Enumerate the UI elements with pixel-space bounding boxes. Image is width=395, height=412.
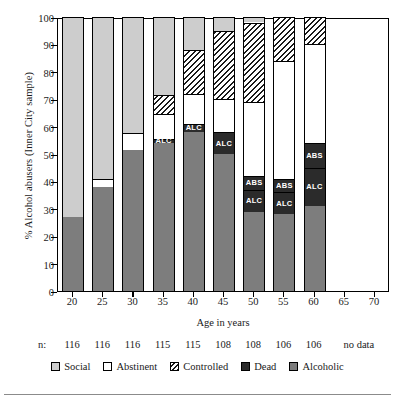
x-axis-title: Age in years xyxy=(57,317,389,328)
bar-segment-dead-alc[interactable]: ALC xyxy=(214,132,234,154)
legend-item-abstinent[interactable]: Abstinent xyxy=(103,361,157,372)
x-tick-label: 65 xyxy=(327,296,361,307)
x-tick-mark xyxy=(102,292,103,297)
legend-swatch-controlled xyxy=(170,362,179,371)
sample-size-prefix: n: xyxy=(38,339,46,350)
bar-segment-social[interactable] xyxy=(184,17,204,50)
bar-column[interactable]: ALC xyxy=(153,17,175,291)
bar-column[interactable] xyxy=(92,17,114,291)
bar-segment-controlled[interactable] xyxy=(154,95,174,114)
legend-item-alcoholic[interactable]: Alcoholic xyxy=(289,361,343,372)
legend-item-social[interactable]: Social xyxy=(51,361,90,372)
x-tick-label: 60 xyxy=(297,296,331,307)
legend-label: Abstinent xyxy=(116,361,157,372)
bar-segment-tag: ABS xyxy=(274,182,294,190)
legend-swatch-alcoholic xyxy=(289,362,298,371)
bar-segment-abstinent[interactable] xyxy=(305,44,325,143)
legend-label: Alcoholic xyxy=(302,361,343,372)
x-tick-mark xyxy=(344,292,345,297)
x-tick-mark xyxy=(314,292,315,297)
x-tick-label: 55 xyxy=(266,296,300,307)
bar-segment-alcoholic[interactable] xyxy=(184,132,204,291)
y-tick-label: 30 xyxy=(8,204,54,215)
bar-column[interactable]: ALC xyxy=(183,17,205,291)
x-tick-label: 35 xyxy=(146,296,180,307)
bar-column[interactable]: ALCABS xyxy=(273,17,295,291)
x-tick-label: 50 xyxy=(236,296,270,307)
x-tick-label: 25 xyxy=(85,296,119,307)
bar-segment-alcoholic[interactable] xyxy=(63,217,83,291)
legend-swatch-dead xyxy=(241,362,250,371)
bar-segment-tag: ABS xyxy=(305,152,325,160)
bar-segment-dead-alc[interactable]: ALC xyxy=(244,190,264,212)
bar-segment-abstinent[interactable] xyxy=(123,133,143,149)
bar-segment-tag: ALC xyxy=(305,184,325,192)
legend-label: Dead xyxy=(254,361,276,372)
legend-swatch-abstinent xyxy=(103,362,112,371)
x-tick-mark xyxy=(72,292,73,297)
bar-column[interactable] xyxy=(122,17,144,291)
bar-segment-alcoholic[interactable] xyxy=(274,214,294,291)
bar-segment-alcoholic[interactable] xyxy=(154,143,174,291)
x-tick-label: 70 xyxy=(357,296,391,307)
y-tick-label: 50 xyxy=(8,150,54,161)
bar-segment-alcoholic[interactable] xyxy=(214,154,234,291)
bar-segment-abstinent[interactable] xyxy=(214,99,234,132)
x-tick-mark xyxy=(193,292,194,297)
bar-column[interactable]: ALCABS xyxy=(243,17,265,291)
y-tick-label: 10 xyxy=(8,259,54,270)
bar-segment-alcoholic[interactable] xyxy=(305,206,325,291)
y-tick-label: 70 xyxy=(8,95,54,106)
bar-segment-abstinent[interactable] xyxy=(184,94,204,124)
bar-segment-dead-alc[interactable]: ALC xyxy=(184,124,204,132)
bar-segment-dead-abs[interactable]: ABS xyxy=(244,176,264,190)
bar-segment-controlled[interactable] xyxy=(214,31,234,100)
y-tick-label: 40 xyxy=(8,177,54,188)
bar-segment-dead-alc[interactable]: ALC xyxy=(305,168,325,206)
bar-segment-controlled[interactable] xyxy=(274,17,294,61)
legend-label: Controlled xyxy=(183,361,228,372)
bar-segment-abstinent[interactable] xyxy=(93,179,113,187)
x-tick-label: 40 xyxy=(176,296,210,307)
bar-segment-social[interactable] xyxy=(63,17,83,217)
bar-segment-dead-alc[interactable]: ALC xyxy=(274,192,294,214)
legend-item-dead[interactable]: Dead xyxy=(241,361,276,372)
x-tick-mark xyxy=(283,292,284,297)
bar-segment-controlled[interactable] xyxy=(184,50,204,94)
sample-size-no-data: no data xyxy=(324,339,394,350)
legend-label: Social xyxy=(64,361,90,372)
bar-column[interactable] xyxy=(62,17,84,291)
bar-segment-dead-abs[interactable]: ABS xyxy=(305,143,325,168)
bar-segment-dead-abs[interactable]: ABS xyxy=(274,179,294,193)
y-tick-label: 20 xyxy=(8,232,54,243)
bar-column[interactable]: ALC xyxy=(213,17,235,291)
y-tick-label: 60 xyxy=(8,122,54,133)
x-tick-label: 20 xyxy=(55,296,89,307)
bars-container: ALCALCALCALCABSALCABSALCABS xyxy=(58,19,388,291)
bar-segment-controlled[interactable] xyxy=(305,17,325,44)
bar-segment-social[interactable] xyxy=(154,17,174,95)
bar-segment-abstinent[interactable] xyxy=(154,114,174,139)
bar-segment-tag: ALC xyxy=(214,140,234,148)
chart-figure: % Alcohol abusers (Inner City sample) 01… xyxy=(0,0,395,412)
bar-segment-alcoholic[interactable] xyxy=(244,212,264,291)
bar-segment-social[interactable] xyxy=(93,17,113,179)
bar-segment-alcoholic[interactable] xyxy=(93,187,113,291)
y-tick-label: 0 xyxy=(8,287,54,298)
bar-segment-abstinent[interactable] xyxy=(274,61,294,179)
x-tick-mark xyxy=(163,292,164,297)
bar-segment-alcoholic[interactable] xyxy=(123,150,143,291)
bar-segment-social[interactable] xyxy=(123,17,143,133)
bar-segment-abstinent[interactable] xyxy=(244,102,264,176)
bar-segment-tag: ALC xyxy=(274,200,294,208)
bar-segment-controlled[interactable] xyxy=(244,23,264,102)
legend-item-controlled[interactable]: Controlled xyxy=(170,361,228,372)
bar-segment-tag: ALC xyxy=(184,125,204,133)
y-tick-label: 100 xyxy=(8,13,54,24)
bar-segment-social[interactable] xyxy=(214,17,234,31)
x-tick-label: 45 xyxy=(206,296,240,307)
bar-segment-dead-alc[interactable]: ALC xyxy=(154,139,174,143)
bar-segment-tag: ABS xyxy=(244,180,264,188)
bar-column[interactable]: ALCABS xyxy=(304,17,326,291)
bar-segment-social[interactable] xyxy=(244,17,264,22)
